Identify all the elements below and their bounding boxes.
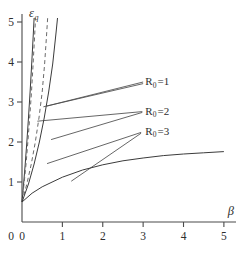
x-tick-label-0: 0 <box>19 230 25 242</box>
chart-figure: 012345123450εqβR0=1R0=2R0=3 β ε <box>0 0 245 253</box>
x-tick-label-1: 1 <box>60 230 66 242</box>
annotation-label-3: R0=3 <box>145 125 170 140</box>
annotation-subscript-3: 0 <box>153 130 157 139</box>
annotation-value-3: =3 <box>158 125 170 137</box>
annotation-leader-6 <box>71 133 141 181</box>
annotation-leader-4 <box>51 112 142 139</box>
annotation-value-1: =1 <box>158 75 170 87</box>
y-axis-title-subscript: q <box>34 13 38 22</box>
x-tick-label-5: 5 <box>221 230 227 242</box>
curve-r0-2-dashed <box>22 18 48 202</box>
annotation-leader-2 <box>43 84 143 107</box>
annotation-label-2: R0=2 <box>145 105 169 120</box>
y-tick-label-2: 2 <box>8 136 14 148</box>
curve-r0-1-solid <box>22 18 34 202</box>
annotation-subscript-1: 0 <box>153 81 157 90</box>
x-tick-label-4: 4 <box>181 230 187 242</box>
y-tick-label-4: 4 <box>8 56 14 68</box>
chart-plot-area: 012345123450εqβR0=1R0=2R0=3 <box>0 0 245 253</box>
annotation-leader-5 <box>47 132 141 163</box>
annotation-leader-3 <box>37 112 142 122</box>
y-tick-label-3: 3 <box>8 96 14 108</box>
annotation-label-1: R0=1 <box>145 75 169 90</box>
x-tick-label-2: 2 <box>100 230 106 242</box>
x-axis-title: β <box>227 204 235 218</box>
curve-r0-3-solid <box>22 152 224 202</box>
y-tick-label-1: 1 <box>8 176 14 188</box>
x-tick-label-3: 3 <box>140 230 146 242</box>
annotation-subscript-2: 0 <box>153 110 157 119</box>
y-tick-label-5: 5 <box>8 16 14 28</box>
y-tick-label-0: 0 <box>8 230 14 242</box>
annotation-value-2: =2 <box>158 105 170 117</box>
